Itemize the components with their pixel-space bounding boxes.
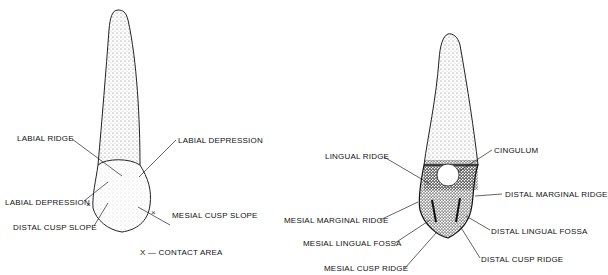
- label-distal-marginal-ridge: DISTAL MARGINAL RIDGE: [505, 190, 608, 199]
- label-mesial-cusp-slope: MESIAL CUSP SLOPE: [172, 211, 258, 220]
- label-distal-lingual-fossa: DISTAL LINGUAL FOSSA: [491, 227, 588, 236]
- label-labial-ridge: LABIAL RIDGE: [17, 134, 74, 143]
- legend-contact-area: X — CONTACT AREA: [140, 248, 222, 257]
- label-labial-depression-right: LABIAL DEPRESSION: [178, 136, 263, 145]
- label-labial-depression-left: LABIAL DEPRESSION: [5, 198, 90, 207]
- label-mesial-marginal-ridge: MESIAL MARGINAL RIDGE: [284, 216, 389, 225]
- label-distal-cusp-slope: DISTAL CUSP SLOPE: [13, 223, 97, 232]
- label-mesial-lingual-fossa: MESIAL LINGUAL FOSSA: [303, 239, 402, 248]
- tooth-diagram: × ×: [0, 0, 608, 275]
- label-cingulum: CINGULUM: [494, 146, 538, 155]
- label-mesial-cusp-ridge: MESIAL CUSP RIDGE: [324, 264, 408, 273]
- label-distal-cusp-ridge: DISTAL CUSP RIDGE: [481, 255, 563, 264]
- right-tooth: [380, 34, 502, 268]
- label-lingual-ridge: LINGUAL RIDGE: [325, 152, 389, 161]
